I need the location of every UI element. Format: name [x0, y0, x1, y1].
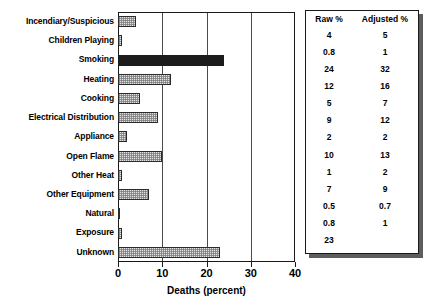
- table-cell-adjusted: 12: [352, 115, 418, 125]
- figure: Incendiary/SuspiciousChildren PlayingSmo…: [0, 0, 427, 307]
- category-label: Natural: [0, 204, 114, 223]
- bar-row: [118, 147, 295, 166]
- table-row: 22: [306, 129, 418, 146]
- category-label: Incendiary/Suspicious: [0, 12, 114, 31]
- bar-row: [118, 185, 295, 204]
- bar: [118, 208, 120, 219]
- table-cell-raw: 12: [306, 81, 352, 91]
- table-cell-adjusted: 9: [352, 184, 418, 194]
- table-cell-adjusted: 5: [352, 30, 418, 40]
- table-cell-adjusted: 32: [352, 64, 418, 74]
- table-cell-raw: 23: [306, 235, 352, 245]
- table-cell-raw: 24: [306, 64, 352, 74]
- table-row: 1216: [306, 77, 418, 94]
- bar-row: [118, 127, 295, 146]
- table-cell-raw: 5: [306, 98, 352, 108]
- category-label: Exposure: [0, 223, 114, 242]
- bar: [118, 131, 127, 142]
- table-cell-adjusted: 0.7: [352, 201, 418, 211]
- table-cell-raw: 9: [306, 115, 352, 125]
- table-row: 1013: [306, 146, 418, 163]
- bar-row: [118, 12, 295, 31]
- table-row: 0.81: [306, 215, 418, 232]
- x-axis-title: Deaths (percent): [118, 285, 295, 296]
- category-label: Electrical Distribution: [0, 108, 114, 127]
- bar: [118, 55, 224, 66]
- data-table-body: Raw %Adjusted %450.812432121657912221013…: [306, 11, 418, 249]
- table-cell-adjusted: 1: [352, 218, 418, 228]
- table-row: 0.50.7: [306, 197, 418, 214]
- table-row: 45: [306, 26, 418, 43]
- bar: [118, 16, 136, 27]
- table-row: 912: [306, 112, 418, 129]
- bar-row: [118, 166, 295, 185]
- category-label: Children Playing: [0, 31, 114, 50]
- bar: [118, 35, 122, 46]
- bar-row: [118, 50, 295, 69]
- bar: [118, 189, 149, 200]
- x-tick-label: 40: [289, 267, 301, 279]
- table-cell-raw: 0.5: [306, 201, 352, 211]
- bar-row: [118, 31, 295, 50]
- category-label: Other Equipment: [0, 185, 114, 204]
- bar-series: [118, 12, 295, 262]
- bar-row: [118, 243, 295, 262]
- category-label: Appliance: [0, 127, 114, 146]
- table-cell-adjusted: 7: [352, 98, 418, 108]
- category-label: Other Heat: [0, 166, 114, 185]
- table-cell-raw: 0.8: [306, 218, 352, 228]
- bar-row: [118, 223, 295, 242]
- bar: [118, 228, 122, 239]
- category-label: Heating: [0, 70, 114, 89]
- category-label: Cooking: [0, 89, 114, 108]
- bar-chart: Incendiary/SuspiciousChildren PlayingSmo…: [0, 0, 300, 307]
- table-row: 12: [306, 163, 418, 180]
- x-tick-label: 0: [115, 267, 121, 279]
- table-header-row: Raw %Adjusted %: [306, 11, 418, 26]
- table-cell-raw: 0.8: [306, 47, 352, 57]
- bar-row: [118, 70, 295, 89]
- bar-row: [118, 204, 295, 223]
- x-tick-label: 10: [156, 267, 168, 279]
- category-axis-labels: Incendiary/SuspiciousChildren PlayingSmo…: [0, 12, 114, 262]
- x-tick-label: 30: [245, 267, 257, 279]
- table-cell-adjusted: 2: [352, 167, 418, 177]
- table-cell-adjusted: 16: [352, 81, 418, 91]
- table-cell-raw: 2: [306, 132, 352, 142]
- bar-row: [118, 89, 295, 108]
- category-label: Open Flame: [0, 147, 114, 166]
- data-table: Raw %Adjusted %450.812432121657912221013…: [305, 10, 419, 254]
- table-row: 23: [306, 232, 418, 249]
- table-row: 0.81: [306, 43, 418, 60]
- bar: [118, 247, 220, 258]
- table-row: 57: [306, 95, 418, 112]
- table-cell-raw: 7: [306, 184, 352, 194]
- bar: [118, 74, 171, 85]
- table-row: 79: [306, 180, 418, 197]
- category-label: Smoking: [0, 50, 114, 69]
- table-header-cell: Raw %: [306, 14, 352, 24]
- bar-row: [118, 108, 295, 127]
- x-tick-label: 20: [200, 267, 212, 279]
- bar: [118, 93, 140, 104]
- bar: [118, 170, 122, 181]
- table-cell-adjusted: 1: [352, 47, 418, 57]
- table-row: 2432: [306, 60, 418, 77]
- table-cell-adjusted: 2: [352, 132, 418, 142]
- table-cell-raw: 10: [306, 150, 352, 160]
- bar: [118, 151, 162, 162]
- table-cell-raw: 4: [306, 30, 352, 40]
- category-label: Unknown: [0, 243, 114, 262]
- table-header-cell: Adjusted %: [352, 14, 418, 24]
- bar: [118, 112, 158, 123]
- table-cell-adjusted: 13: [352, 150, 418, 160]
- table-cell-raw: 1: [306, 167, 352, 177]
